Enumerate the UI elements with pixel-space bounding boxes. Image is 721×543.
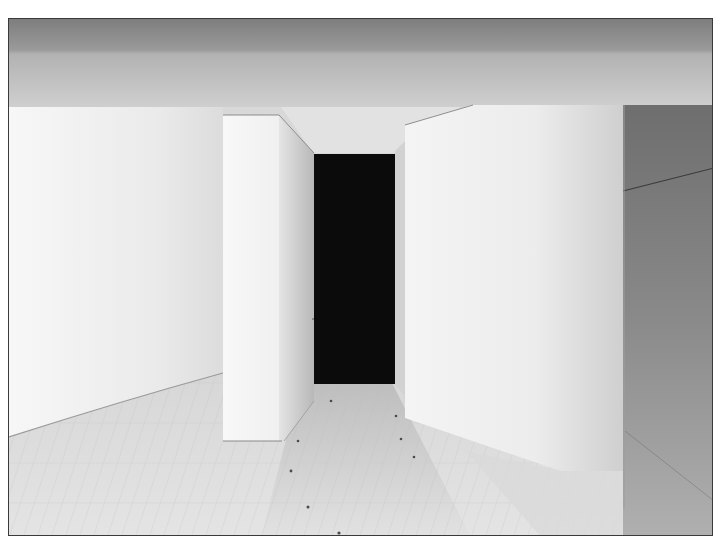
- gallery-interior-scene: [9, 19, 713, 536]
- right-side-wall: [623, 105, 713, 536]
- ceiling-beam: [9, 19, 713, 107]
- photograph: [8, 18, 713, 536]
- dark-doorway: [314, 154, 395, 384]
- central-pillar: [223, 115, 314, 441]
